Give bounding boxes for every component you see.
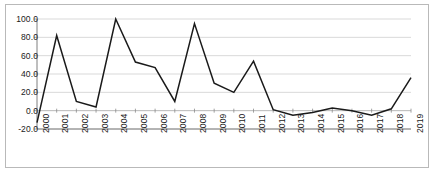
line-chart-svg [6,5,430,169]
y-tick-label: 80.0 [21,32,38,42]
chart-container: -20.00.020.040.060.080.0100.0 2000200120… [5,4,429,168]
y-tick-label: 20.0 [21,87,38,97]
y-tick-label: 40.0 [21,69,38,79]
y-tick-label: 0.0 [26,106,38,116]
y-tick-label: -20.0 [18,124,38,134]
plot-area: -20.00.020.040.060.080.0100.0 2000200120… [6,5,428,167]
y-axis: -20.00.020.040.060.080.0100.0 [10,5,38,167]
data-series-line [37,19,411,123]
y-tick-label: 60.0 [21,51,38,61]
y-tick-label: 100.0 [16,14,38,24]
